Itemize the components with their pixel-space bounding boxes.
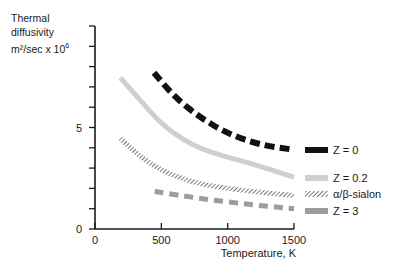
legend-label-2: α/β-sialon	[333, 188, 381, 200]
x-tick-label: 1500	[282, 234, 306, 246]
legend-label-1: Z = 0.2	[333, 172, 368, 184]
y-tick-label: 0	[76, 223, 82, 235]
x-axis-label: Temperature, K	[221, 247, 297, 259]
series-line-0	[154, 73, 294, 150]
x-tick-label: 0	[92, 234, 98, 246]
legend: Z = 0Z = 0.2α/β-sialonZ = 3	[305, 144, 381, 217]
legend-label-0: Z = 0	[333, 144, 358, 156]
line-chart: 05050010001500 Z = 0Z = 0.2α/β-sialonZ =…	[0, 0, 396, 265]
y-tick-label: 5	[76, 122, 82, 134]
legend-label-3: Z = 3	[333, 205, 358, 217]
axes: 05050010001500	[76, 26, 306, 246]
x-tick-label: 1000	[215, 234, 239, 246]
x-tick-label: 500	[152, 234, 170, 246]
series-group	[120, 73, 294, 209]
